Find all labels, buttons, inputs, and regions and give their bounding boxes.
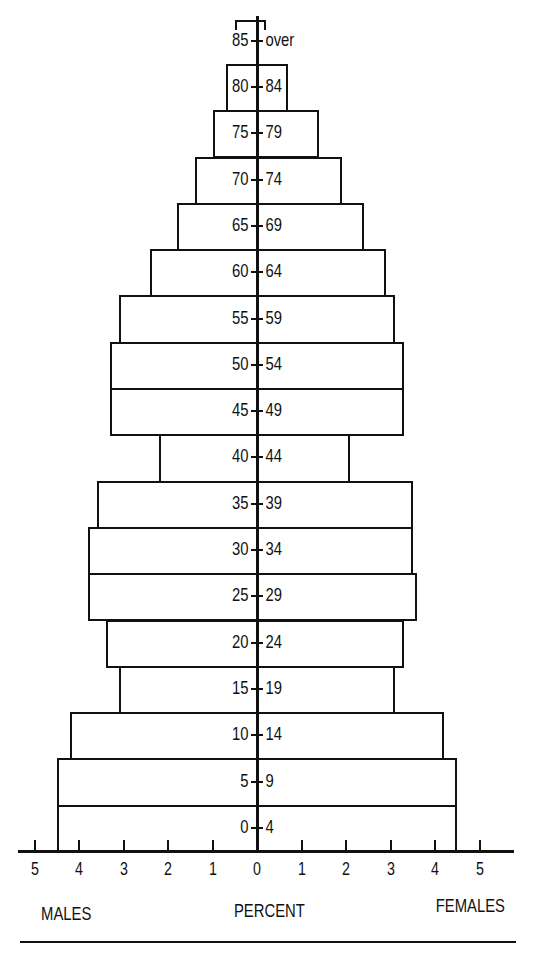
age-label-end: 69 (265, 214, 296, 236)
x-tick-mark (434, 840, 436, 851)
x-axis-line (18, 850, 514, 853)
bar-20-24 (106, 620, 404, 668)
bar-40-44 (159, 434, 350, 482)
x-tick-mark (479, 840, 481, 851)
age-tick (251, 781, 263, 783)
age-tick (251, 503, 263, 505)
age-label-start: 15 (217, 677, 248, 699)
age-label-start: 10 (217, 723, 248, 745)
age-tick (251, 225, 263, 227)
age-tick (251, 549, 263, 551)
x-tick-mark (212, 840, 214, 851)
age-label-start: 25 (217, 584, 248, 606)
x-tick-mark (123, 840, 125, 851)
age-label-start: 75 (217, 121, 248, 143)
x-tick-label: 4 (428, 858, 443, 880)
age-label-end: 79 (265, 121, 296, 143)
age-tick (251, 734, 263, 736)
age-tick (251, 364, 263, 366)
age-tick (251, 688, 263, 690)
age-label-end: 74 (265, 168, 296, 190)
age-label-start: 35 (217, 492, 248, 514)
population-pyramid-chart: 0459101415192024252930343539404445495054… (0, 0, 534, 962)
x-tick-label: 5 (472, 858, 487, 880)
x-tick-label: 1 (205, 858, 220, 880)
age-label-end: 34 (265, 538, 296, 560)
age-tick (251, 595, 263, 597)
x-tick-label: 5 (27, 858, 42, 880)
x-tick-mark (167, 840, 169, 851)
age-label-end: 39 (265, 492, 296, 514)
age-label-end: 24 (265, 631, 296, 653)
age-tick (251, 179, 263, 181)
x-tick-label: 3 (116, 858, 131, 880)
age-tick (251, 40, 263, 42)
age-tick (251, 827, 263, 829)
bottom-rule (20, 941, 516, 943)
age-label-start: 40 (217, 445, 248, 467)
age-label-start: 20 (217, 631, 248, 653)
age-tick (251, 456, 263, 458)
x-tick-label: 1 (294, 858, 309, 880)
x-tick-label: 0 (250, 858, 265, 880)
age-label-end: 44 (265, 445, 296, 467)
age-label-end: 84 (265, 75, 296, 97)
x-tick-mark (345, 840, 347, 851)
age-label-end: 64 (265, 260, 296, 282)
age-label-start: 70 (217, 168, 248, 190)
females-label: FEMALES (436, 895, 505, 917)
percent-label: PERCENT (234, 900, 305, 922)
age-label-end: 49 (265, 399, 296, 421)
x-tick-label: 4 (72, 858, 87, 880)
center-axis-line (256, 16, 259, 851)
age-tick (251, 86, 263, 88)
age-label-start: 50 (217, 353, 248, 375)
age-tick (251, 271, 263, 273)
age-tick (251, 642, 263, 644)
x-tick-label: 3 (383, 858, 398, 880)
age-tick (251, 132, 263, 134)
age-label-end: 19 (265, 677, 296, 699)
age-label-start: 0 (217, 816, 248, 838)
x-tick-label: 2 (339, 858, 354, 880)
age-label-end: 9 (265, 770, 296, 792)
age-label-end: 29 (265, 584, 296, 606)
age-label-end: 59 (265, 307, 296, 329)
x-tick-mark (301, 840, 303, 851)
age-label-start: 65 (217, 214, 248, 236)
age-label-start: 85 (217, 29, 248, 51)
x-tick-label: 2 (161, 858, 176, 880)
age-label-start: 45 (217, 399, 248, 421)
age-label-end: 54 (265, 353, 296, 375)
x-tick-mark (34, 840, 36, 851)
age-label-end: 4 (265, 816, 296, 838)
age-label-end: over (265, 29, 296, 51)
age-label-start: 80 (217, 75, 248, 97)
males-label: MALES (41, 903, 91, 925)
age-tick (251, 318, 263, 320)
age-label-end: 14 (265, 723, 296, 745)
x-tick-mark (78, 840, 80, 851)
age-label-start: 55 (217, 307, 248, 329)
age-label-start: 30 (217, 538, 248, 560)
age-label-start: 60 (217, 260, 248, 282)
x-tick-mark (390, 840, 392, 851)
age-label-start: 5 (217, 770, 248, 792)
age-tick (251, 410, 263, 412)
